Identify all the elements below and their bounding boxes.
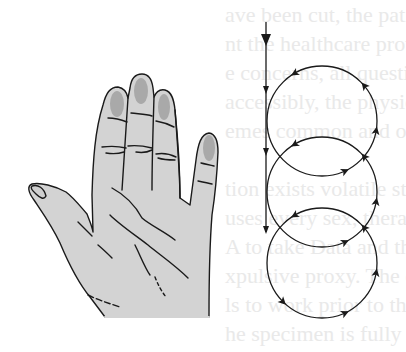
current-loop-2: [267, 137, 377, 247]
nail-middle: [134, 78, 148, 104]
nail-ring: [158, 94, 170, 120]
figure: [0, 0, 406, 352]
current-loop-1: [267, 66, 377, 176]
arrow-down-icon: [261, 34, 271, 46]
loop-arrow-icon: [362, 83, 370, 92]
arrow-down-icon: [263, 86, 269, 94]
nail-pinky: [203, 135, 215, 161]
arrow-down-icon: [263, 226, 269, 234]
loop-arrows: [278, 68, 380, 318]
hand-illustration: [29, 74, 218, 317]
arrow-down-icon: [263, 148, 269, 156]
loop-diagram: [266, 22, 377, 318]
nail-index: [110, 91, 124, 117]
